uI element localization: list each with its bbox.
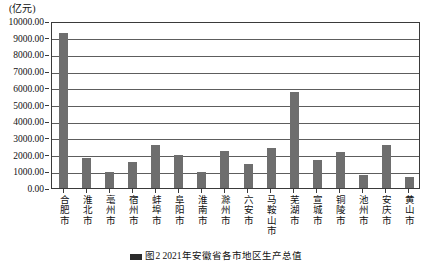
bar: [151, 145, 160, 188]
y-axis-unit-label: (亿元): [9, 3, 36, 15]
bar: [290, 92, 299, 188]
bar: [382, 145, 391, 188]
y-tick-label: 9000.00: [13, 34, 44, 44]
bar: [105, 172, 114, 188]
x-tick-label: 芜湖市: [287, 195, 299, 226]
bar: [267, 148, 276, 188]
x-tick-label: 宿州市: [126, 195, 138, 226]
x-tick-mark: [178, 189, 179, 193]
figure-caption-text: 图2 2021年安徽省各市地区生产总值: [145, 251, 301, 261]
y-tick-mark: [45, 172, 49, 173]
x-tick-label: 宣城市: [310, 195, 322, 226]
bar: [197, 172, 206, 188]
bar: [359, 175, 368, 188]
x-tick-label: 马鞍山市: [264, 195, 276, 236]
x-tick-label: 铜陵市: [333, 195, 345, 226]
x-tick-mark: [408, 189, 409, 193]
x-tick-mark: [86, 189, 87, 193]
y-tick-mark: [45, 38, 49, 39]
bar: [244, 164, 253, 188]
x-tick-label: 六安市: [241, 195, 253, 226]
x-tick-mark: [247, 189, 248, 193]
y-tick-label: 2000.00: [13, 151, 44, 161]
bar: [313, 160, 322, 188]
x-tick-mark: [132, 189, 133, 193]
x-tick-label: 滁州市: [218, 195, 230, 226]
y-tick-mark: [45, 138, 49, 139]
y-tick-mark: [45, 189, 49, 190]
x-tick-mark: [270, 189, 271, 193]
x-tick-label: 亳州市: [103, 195, 115, 226]
x-tick-label: 安庆市: [379, 195, 391, 226]
y-tick-label: 7000.00: [13, 67, 44, 77]
bars-container: [52, 23, 419, 188]
x-tick-mark: [201, 189, 202, 193]
x-tick-label: 池州市: [356, 195, 368, 226]
x-tick-mark: [339, 189, 340, 193]
x-tick-mark: [63, 189, 64, 193]
x-tick-mark: [224, 189, 225, 193]
y-tick-label: 3000.00: [13, 134, 44, 144]
figure-caption: 图2 2021年安徽省各市地区生产总值: [0, 250, 432, 262]
x-axis: 合肥市淮北市亳州市宿州市蚌埠市阜阳市淮南市滁州市六安市马鞍山市芜湖市宣城市铜陵市…: [51, 189, 420, 255]
bar: [220, 151, 229, 188]
x-tick-label: 蚌埠市: [149, 195, 161, 226]
x-tick-mark: [155, 189, 156, 193]
y-tick-label: 0.00: [27, 184, 44, 194]
bar: [174, 155, 183, 188]
bar: [128, 162, 137, 188]
bar: [405, 177, 414, 188]
y-tick-label: 8000.00: [13, 50, 44, 60]
y-tick-mark: [45, 55, 49, 56]
y-tick-label: 4000.00: [13, 117, 44, 127]
x-tick-mark: [316, 189, 317, 193]
x-tick-mark: [385, 189, 386, 193]
x-tick-label: 淮南市: [195, 195, 207, 226]
y-tick-label: 6000.00: [13, 84, 44, 94]
y-tick-mark: [45, 122, 49, 123]
plot-area: [51, 22, 420, 189]
legend-swatch-icon: [130, 254, 142, 260]
y-axis: 0.001000.002000.003000.004000.005000.006…: [0, 22, 49, 189]
bar: [336, 152, 345, 188]
y-tick-mark: [45, 72, 49, 73]
x-tick-label: 淮北市: [80, 195, 92, 226]
y-tick-mark: [45, 155, 49, 156]
y-tick-label: 5000.00: [13, 101, 44, 111]
bar: [82, 158, 91, 188]
y-tick-label: 1000.00: [13, 167, 44, 177]
bar: [59, 33, 68, 188]
x-tick-mark: [362, 189, 363, 193]
x-tick-label: 黄山市: [402, 195, 414, 226]
y-tick-mark: [45, 22, 49, 23]
y-tick-mark: [45, 88, 49, 89]
x-tick-label: 阜阳市: [172, 195, 184, 226]
y-tick-mark: [45, 105, 49, 106]
x-tick-label: 合肥市: [57, 195, 69, 226]
y-tick-label: 10000.00: [8, 17, 44, 27]
x-tick-mark: [293, 189, 294, 193]
x-tick-mark: [109, 189, 110, 193]
